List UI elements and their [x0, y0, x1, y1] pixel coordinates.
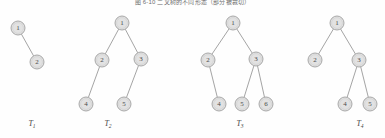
- tree-edge: [210, 67, 218, 97]
- tree-edge: [347, 67, 357, 98]
- tree-edge: [88, 67, 99, 98]
- tree-node: 1: [115, 16, 129, 30]
- node-label: 5: [368, 100, 372, 108]
- tree-node: 4: [338, 97, 352, 111]
- tree-name-subscript: 1: [33, 123, 36, 129]
- tree-node: 1: [11, 21, 25, 35]
- node-label: 3: [357, 56, 361, 64]
- tree-diagram-canvas: 121234512345612345 T1T2T3T4: [0, 0, 385, 138]
- tree-name-subscript: 4: [361, 123, 364, 129]
- tree-node: 5: [117, 97, 131, 111]
- node-label: 1: [335, 19, 339, 27]
- tree-node: 3: [249, 52, 263, 66]
- nodes-layer: 121234512345612345: [11, 16, 377, 111]
- tree-node: 2: [308, 53, 322, 67]
- tree-node: 6: [259, 97, 273, 111]
- tree-edge: [212, 29, 229, 54]
- tree-node: 1: [226, 16, 240, 30]
- tree-name-label: T4: [356, 119, 363, 129]
- tree-node: 4: [79, 97, 93, 111]
- tree-name-label: T3: [236, 119, 243, 129]
- tree-node: 4: [212, 97, 226, 111]
- tree-name-label: T1: [28, 119, 35, 129]
- node-label: 4: [217, 100, 221, 108]
- node-label: 1: [16, 24, 20, 32]
- node-label: 2: [100, 56, 104, 64]
- tree-node: 5: [363, 97, 377, 111]
- node-label: 2: [313, 56, 317, 64]
- tree-name-subscript: 3: [240, 123, 244, 129]
- tree-node: 3: [352, 53, 366, 67]
- tree-edge: [319, 29, 334, 54]
- tree-edge: [361, 67, 369, 97]
- node-label: 6: [264, 100, 268, 108]
- node-label: 3: [254, 55, 258, 63]
- node-label: 5: [122, 100, 126, 108]
- tree-edge: [105, 29, 118, 54]
- node-label: 4: [343, 100, 347, 108]
- node-label: 3: [139, 55, 143, 63]
- tree-edge: [125, 29, 137, 53]
- node-label: 2: [35, 58, 39, 66]
- tree-node: 3: [134, 52, 148, 66]
- node-label: 4: [84, 100, 88, 108]
- tree-node: 2: [30, 55, 44, 69]
- tree-edge: [21, 34, 33, 56]
- tree-name-subscript: 2: [109, 123, 112, 129]
- tree-name-label: T2: [104, 119, 111, 129]
- node-label: 1: [120, 19, 124, 27]
- tree-node: 2: [95, 53, 109, 67]
- tree-edge: [258, 66, 265, 97]
- tree-node: 5: [235, 97, 249, 111]
- tree-edge: [244, 66, 254, 98]
- node-label: 2: [206, 56, 210, 64]
- figure-container: 图 6-10 二叉树的不同形态（部分被裁切） 12123451234561234…: [0, 0, 385, 138]
- node-label: 5: [240, 100, 244, 108]
- tree-labels-layer: T1T2T3T4: [28, 119, 363, 129]
- tree-node: 2: [201, 53, 215, 67]
- node-label: 1: [231, 19, 235, 27]
- tree-edge: [126, 66, 138, 98]
- tree-node: 1: [330, 16, 344, 30]
- tree-edge: [237, 29, 252, 53]
- tree-edge: [341, 29, 356, 54]
